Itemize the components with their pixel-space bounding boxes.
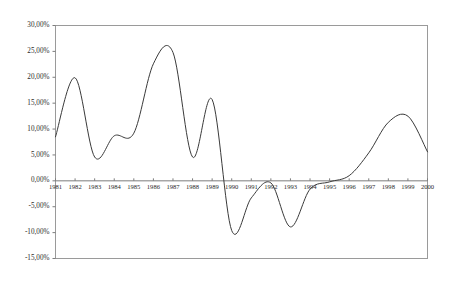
y-tick-label: 0,00% <box>31 176 50 184</box>
x-tick-label: 1986 <box>147 183 161 190</box>
y-tick-label: 20,00% <box>27 73 49 81</box>
x-tick-label: 1981 <box>49 183 62 190</box>
chart-container: 30,00%25,00%20,00%15,00%10,00%5,00%0,00%… <box>0 0 454 287</box>
x-tick-label: 1983 <box>88 183 102 190</box>
y-tick-label: 30,00% <box>27 21 49 29</box>
x-tick-label: 1985 <box>127 183 141 190</box>
x-tick-label: 1993 <box>284 183 298 190</box>
y-tick-label: -15,00% <box>25 254 50 262</box>
x-tick-label: 1997 <box>362 183 376 190</box>
x-tick-label: 1984 <box>108 183 122 190</box>
line-chart: 30,00%25,00%20,00%15,00%10,00%5,00%0,00%… <box>0 0 454 287</box>
y-tick-label: 5,00% <box>31 151 50 159</box>
y-tick-label: 15,00% <box>27 99 49 107</box>
y-tick-label: 25,00% <box>27 47 49 55</box>
x-tick-label: 1991 <box>245 183 258 190</box>
x-tick-label: 1988 <box>186 183 200 190</box>
x-tick-label: 1998 <box>382 183 396 190</box>
y-tick-label: 10,00% <box>27 125 49 133</box>
x-tick-label: 1995 <box>323 183 337 190</box>
x-tick-label: 1982 <box>68 183 81 190</box>
x-tick-label: 1999 <box>401 183 415 190</box>
x-tick-label: 1987 <box>166 183 180 190</box>
chart-background <box>0 0 454 287</box>
x-tick-label: 1990 <box>225 183 239 190</box>
x-tick-label: 1992 <box>264 183 277 190</box>
x-tick-label: 1996 <box>343 183 357 190</box>
x-tick-label: 2000 <box>421 183 435 190</box>
x-tick-label: 1989 <box>206 183 220 190</box>
y-tick-label: -10,00% <box>25 228 50 236</box>
y-tick-label: -5,00% <box>29 202 50 210</box>
